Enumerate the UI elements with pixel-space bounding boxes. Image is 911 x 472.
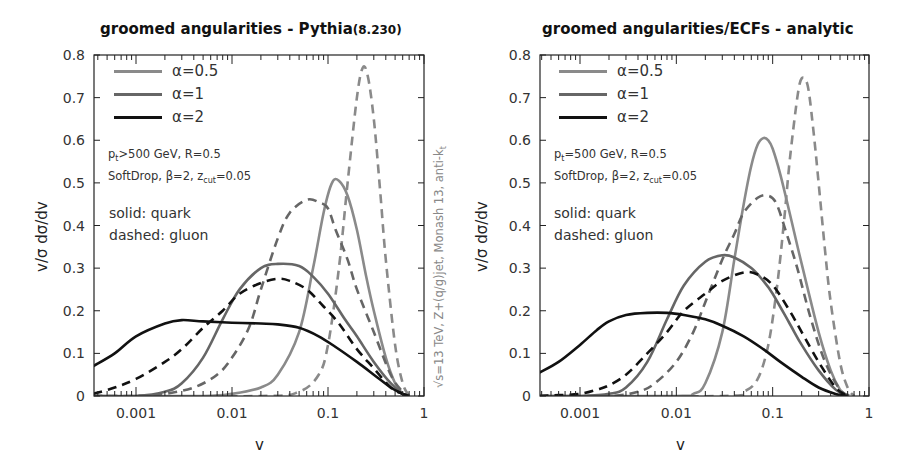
y-tick-label: 0.8: [509, 47, 531, 63]
y-tick-label: 0.7: [63, 90, 85, 106]
annotation-pt: pt=500 GeV, R=0.5: [554, 147, 667, 163]
y-axis-label: v/σ dσ/dv: [473, 201, 491, 272]
legend-label: α=2: [617, 108, 649, 126]
legend-swatch: [559, 70, 607, 73]
series-line: [540, 313, 848, 396]
x-tick-label: 0.001: [116, 405, 156, 421]
annot-text: =0.05: [216, 169, 251, 183]
legend-item-alpha-1: α=1: [559, 85, 649, 103]
x-tick-label: 0.1: [762, 405, 784, 421]
series-line: [93, 320, 409, 396]
x-tick-label: 0.001: [560, 405, 600, 421]
annotation-dashed: dashed: gluon: [554, 224, 653, 246]
y-tick-label: 0.3: [63, 260, 85, 276]
annot-text: >500 GeV, R=0.5: [118, 147, 220, 161]
annotation-softdrop: SoftDrop, β=2, zcut=0.05: [554, 169, 697, 185]
legend-label: α=1: [172, 85, 204, 103]
legend-swatch: [114, 70, 162, 73]
x-tick-label: 1: [865, 405, 874, 421]
legend-swatch: [114, 93, 162, 96]
y-axis-label: v/σ dσ/dv: [33, 201, 51, 272]
legend-item-alpha-2: α=2: [114, 108, 204, 126]
legend-label: α=0.5: [617, 62, 663, 80]
y-tick-label: 0.2: [509, 303, 531, 319]
x-tick-label: 0.01: [661, 405, 692, 421]
x-tick-label: 1: [420, 405, 429, 421]
legend-item-alpha-0-5: α=0.5: [559, 62, 663, 80]
y-tick-label: 0.6: [509, 132, 531, 148]
y-tick-label: 0.4: [63, 218, 85, 234]
series-line: [93, 279, 409, 396]
side-note: √s=13 TeV, Z+(q/g)jet, Monash 13, anti-k…: [432, 146, 448, 388]
legend-item-alpha-2: α=2: [559, 108, 649, 126]
annotation-solid: solid: quark: [109, 202, 191, 224]
x-tick-label: 0.01: [216, 405, 247, 421]
annotation-dashed: dashed: gluon: [109, 224, 208, 246]
x-axis-label: v: [676, 436, 685, 454]
plot-area: 00.10.20.30.40.50.60.70.80.0010.010.11: [455, 0, 910, 472]
chart-panel-pythia: groomed angularities - Pythia(8.230) 00.…: [0, 0, 455, 472]
legend-label: α=0.5: [172, 62, 218, 80]
y-tick-label: 0.5: [509, 175, 531, 191]
chart-panel-analytic: groomed angularities/ECFs - analytic 00.…: [455, 0, 910, 472]
y-tick-label: 0.7: [509, 90, 531, 106]
annot-sub: cut: [203, 176, 216, 185]
x-axis-label: v: [255, 436, 264, 454]
y-tick-label: 0.1: [509, 345, 531, 361]
series-line: [540, 255, 848, 396]
legend-label: α=2: [172, 108, 204, 126]
legend-swatch: [559, 116, 607, 119]
y-tick-label: 0.4: [509, 218, 531, 234]
legend-item-alpha-0-5: α=0.5: [114, 62, 218, 80]
y-tick-label: 0.8: [63, 47, 85, 63]
annot-text: =0.05: [662, 169, 697, 183]
legend-swatch: [559, 93, 607, 96]
y-tick-label: 0.5: [63, 175, 85, 191]
annotation-softdrop: SoftDrop, β=2, zcut=0.05: [108, 169, 251, 185]
y-tick-label: 0.6: [63, 132, 85, 148]
annot-text: =500 GeV, R=0.5: [564, 147, 666, 161]
side-note-text: √s=13 TeV, Z+(q/g)jet, Monash 13, anti-k: [432, 149, 446, 388]
annot-text: SoftDrop, β=2, z: [108, 169, 203, 183]
plot-area: 00.10.20.30.40.50.60.70.80.0010.010.11: [0, 0, 455, 472]
y-tick-label: 0.1: [63, 345, 85, 361]
annot-text: SoftDrop, β=2, z: [554, 169, 649, 183]
annotation-solid: solid: quark: [554, 202, 636, 224]
annotation-pt-cut: pt>500 GeV, R=0.5: [108, 147, 221, 163]
y-tick-label: 0: [76, 388, 85, 404]
annot-sub: cut: [649, 176, 662, 185]
y-tick-label: 0.2: [63, 303, 85, 319]
y-tick-label: 0.3: [509, 260, 531, 276]
y-tick-label: 0: [522, 388, 531, 404]
legend-label: α=1: [617, 85, 649, 103]
x-tick-label: 0.1: [317, 405, 339, 421]
side-note-sub: t: [439, 146, 448, 149]
legend-item-alpha-1: α=1: [114, 85, 204, 103]
legend-swatch: [114, 116, 162, 119]
